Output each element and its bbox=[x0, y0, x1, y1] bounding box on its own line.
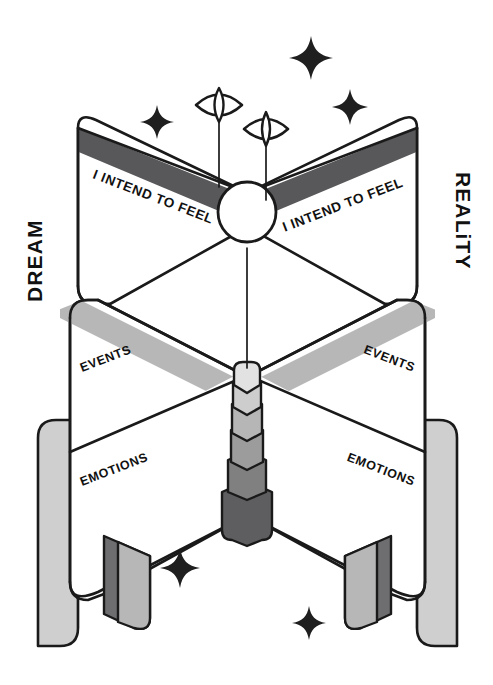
side-label-reality: REALiTY bbox=[452, 172, 475, 270]
dream-reality-illustration: I INTEND TO FEEL I INTEND TO FEEL bbox=[0, 0, 493, 685]
hub-circle-icon bbox=[218, 182, 276, 242]
side-label-dream: DREAM bbox=[23, 220, 46, 303]
illustration-root: I INTEND TO FEEL I INTEND TO FEEL bbox=[0, 0, 493, 685]
